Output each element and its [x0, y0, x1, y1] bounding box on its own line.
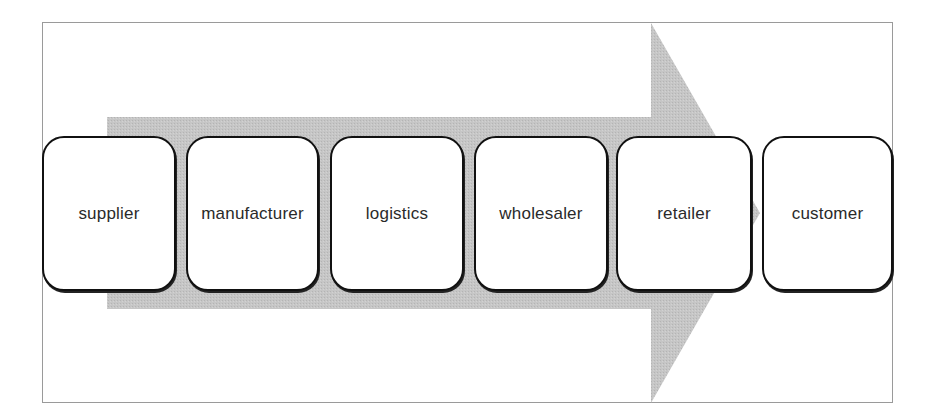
- stage-box-supplier: supplier: [42, 136, 176, 291]
- stage-box-manufacturer: manufacturer: [186, 136, 319, 291]
- stage-box-retailer: retailer: [616, 136, 752, 291]
- stage-label: retailer: [657, 204, 711, 224]
- stage-label: manufacturer: [201, 204, 304, 224]
- stage-label: customer: [792, 204, 864, 224]
- stage-box-logistics: logistics: [330, 136, 464, 291]
- stage-box-wholesaler: wholesaler: [474, 136, 608, 291]
- stage-label: logistics: [366, 204, 428, 224]
- stage-label: supplier: [78, 204, 139, 224]
- stage-label: wholesaler: [499, 204, 582, 224]
- stage-box-customer: customer: [762, 136, 893, 291]
